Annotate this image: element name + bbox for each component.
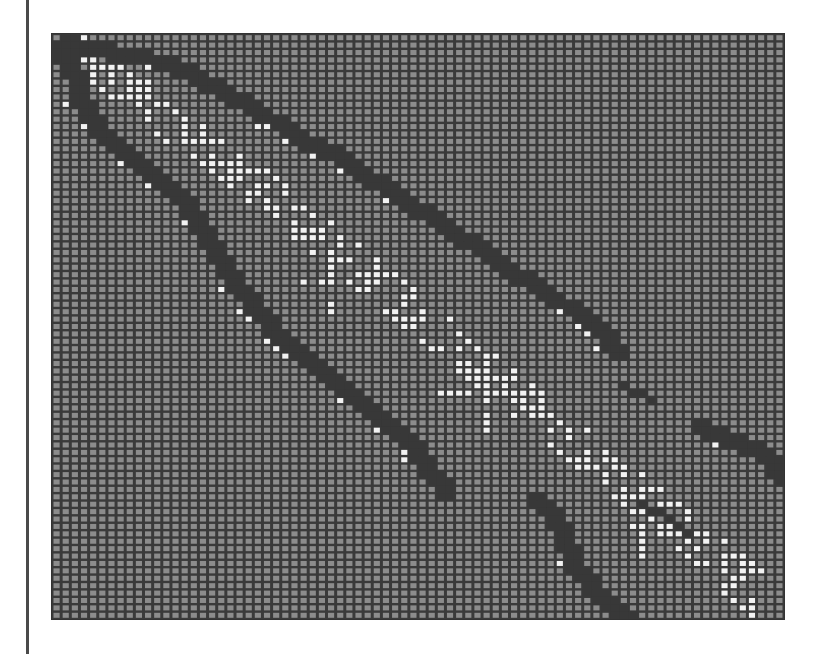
matrix-canvas xyxy=(52,34,784,619)
sparse-matrix-plot: Sparse matrix structure plot: ~80x79 gri… xyxy=(51,33,785,620)
left-border-rule xyxy=(26,0,29,654)
chart-description: Sparse matrix structure plot: ~80x79 gri… xyxy=(52,619,53,620)
